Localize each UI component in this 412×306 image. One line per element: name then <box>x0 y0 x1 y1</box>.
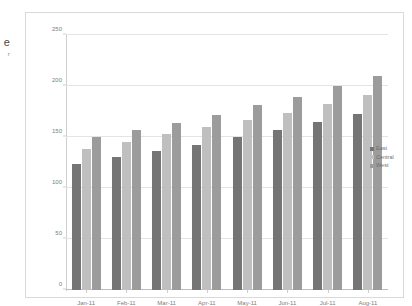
x-axis-tick-mark <box>287 290 288 293</box>
clipped-axis-title: e r <box>0 36 10 58</box>
y-axis-tick-label: 200 <box>52 77 62 83</box>
bar-east <box>192 145 201 290</box>
bar-chart: e r 050100150200250 Jan-11Feb-11Mar-11Ap… <box>0 0 412 306</box>
legend-label: East <box>376 146 387 152</box>
bar-central <box>122 142 131 290</box>
bar-east <box>353 114 362 290</box>
bar-west <box>212 115 221 290</box>
y-axis-tick-label: 150 <box>52 128 62 134</box>
x-axis-tick-mark <box>167 290 168 293</box>
bar-central <box>323 104 332 290</box>
bar-group: Apr-11 <box>187 35 227 290</box>
bar-west <box>333 86 342 290</box>
y-axis-tick-label: 0 <box>59 281 62 287</box>
x-axis-tick-mark <box>247 290 248 293</box>
x-axis-tick-mark <box>86 290 87 293</box>
legend-item: West <box>370 163 410 169</box>
bar-east <box>273 130 282 290</box>
bar-groups: Jan-11Feb-11Mar-11Apr-11May-11Jun-11Jul-… <box>66 35 388 290</box>
legend-swatch-icon <box>370 155 374 159</box>
bar-central <box>82 149 91 290</box>
x-axis-tick-mark <box>368 290 369 293</box>
bar-west <box>253 105 262 290</box>
x-axis-tick-label: May-11 <box>237 300 257 306</box>
chart-legend: EastCentralWest <box>370 146 410 172</box>
plot-area: 050100150200250 Jan-11Feb-11Mar-11Apr-11… <box>66 35 388 290</box>
bar-east <box>72 164 81 290</box>
bar-west <box>92 137 101 290</box>
bar-group: Mar-11 <box>147 35 187 290</box>
bar-central <box>202 127 211 290</box>
bar-group: Jul-11 <box>308 35 348 290</box>
bar-west <box>293 97 302 290</box>
chart-frame: 050100150200250 Jan-11Feb-11Mar-11Apr-11… <box>25 12 404 298</box>
bar-group: Feb-11 <box>106 35 146 290</box>
x-axis-tick-mark <box>328 290 329 293</box>
x-axis-tick-mark <box>207 290 208 293</box>
clipped-axis-title-text: e <box>4 36 10 48</box>
bar-east <box>152 151 161 290</box>
x-axis-tick-label: Jan-11 <box>77 300 95 306</box>
bar-east <box>313 122 322 290</box>
bar-central <box>363 95 372 290</box>
bar-east <box>233 137 242 290</box>
x-axis-tick-label: Jul-11 <box>320 300 336 306</box>
bar-group: May-11 <box>227 35 267 290</box>
bar-central <box>162 134 171 290</box>
x-axis-tick-label: Mar-11 <box>157 300 176 306</box>
y-axis-tick-label: 100 <box>52 179 62 185</box>
legend-swatch-icon <box>370 164 374 168</box>
x-axis-tick-label: Jun-11 <box>278 300 296 306</box>
legend-item: East <box>370 146 410 152</box>
x-axis-tick-label: Feb-11 <box>117 300 136 306</box>
bar-west <box>373 76 382 290</box>
legend-swatch-icon <box>370 147 374 151</box>
x-axis-tick-label: Aug-11 <box>358 300 377 306</box>
bar-west <box>172 123 181 290</box>
x-axis-tick-label: Apr-11 <box>198 300 216 306</box>
bar-east <box>112 157 121 290</box>
x-axis-tick-mark <box>126 290 127 293</box>
y-axis-tick-label: 250 <box>52 26 62 32</box>
legend-label: Central <box>376 155 394 161</box>
bar-central <box>283 113 292 290</box>
bar-group: Jun-11 <box>267 35 307 290</box>
bar-west <box>132 130 141 290</box>
legend-item: Central <box>370 155 410 161</box>
clipped-axis-title-sub: r <box>0 51 10 59</box>
legend-label: West <box>376 163 388 169</box>
bar-central <box>243 120 252 290</box>
bar-group: Jan-11 <box>66 35 106 290</box>
y-axis-tick-label: 50 <box>55 230 62 236</box>
